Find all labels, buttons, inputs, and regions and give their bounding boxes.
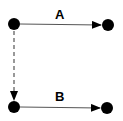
node-top-right: [102, 19, 114, 31]
edge-b-label: B: [55, 89, 64, 104]
node-bottom-left: [8, 101, 20, 113]
diagram-canvas: A B: [0, 0, 123, 121]
node-bottom-right: [101, 102, 113, 114]
edge-a-label: A: [55, 7, 65, 22]
node-top-left: [8, 18, 20, 30]
edge-a-line: [20, 24, 101, 25]
edge-b-line: [20, 107, 100, 108]
